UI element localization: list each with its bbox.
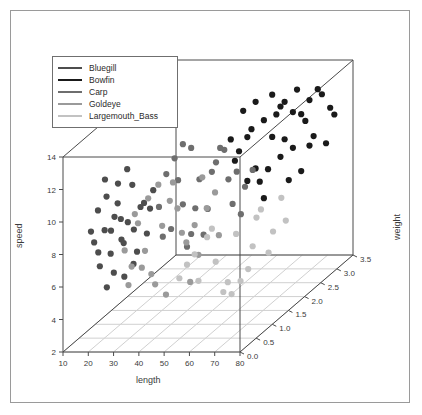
- scatter-point: [213, 159, 219, 165]
- scatter-point: [88, 229, 94, 235]
- scatter-point: [180, 141, 186, 147]
- scatter-point: [104, 284, 110, 290]
- scatter-point: [277, 154, 283, 160]
- axis-tick-label: 4: [52, 316, 57, 325]
- scatter-point: [237, 278, 243, 284]
- scatter-point: [234, 169, 240, 175]
- scatter-point: [323, 140, 329, 146]
- figure-canvas: 102030405060708024681012140.00.51.01.52.…: [0, 0, 422, 415]
- axis-tick-label: 40: [134, 359, 143, 368]
- scatter-point: [124, 166, 130, 172]
- scatter-point: [129, 182, 135, 188]
- axis-tick-label: 0.5: [263, 338, 275, 347]
- axis-tick-label: 70: [210, 359, 219, 368]
- legend-swatch-line: [58, 103, 82, 105]
- box-edge: [240, 60, 353, 157]
- scatter-point: [209, 226, 215, 232]
- scatter-point: [278, 195, 284, 201]
- scatter-point: [152, 281, 158, 287]
- scatter-point: [286, 177, 292, 183]
- scatter-point: [192, 222, 198, 228]
- scatter-point: [220, 289, 226, 295]
- scatter-point: [118, 216, 124, 222]
- axis-tick-label: 10: [59, 359, 68, 368]
- scatter-point: [160, 234, 166, 240]
- axis-tick-label: 2.0: [312, 297, 324, 306]
- axis-tick-label: 6: [52, 283, 57, 292]
- legend-box[interactable]: BluegillBowfinCarpGoldeyeLargemouth_Bass: [52, 56, 178, 128]
- z-axis-tick: [256, 338, 260, 340]
- scatter-point: [204, 205, 210, 211]
- scatter-point: [257, 179, 263, 185]
- scatter-point: [221, 147, 227, 153]
- scatter-point: [236, 148, 242, 154]
- axis-tick-label: 10: [47, 218, 56, 227]
- scatter-point: [159, 223, 165, 229]
- scatter-point: [294, 86, 300, 92]
- scatter-point: [125, 282, 131, 288]
- axis-tick-label: 2.5: [328, 283, 340, 292]
- scatter-point: [311, 133, 317, 139]
- scatter-point: [242, 184, 248, 190]
- scatter-point: [232, 158, 238, 164]
- legend-swatch-line: [58, 67, 82, 69]
- scatter-point: [102, 227, 108, 233]
- z-axis-tick: [288, 310, 292, 312]
- legend-item[interactable]: Largemouth_Bass: [58, 110, 173, 122]
- legend-item[interactable]: Goldeye: [58, 98, 173, 110]
- y-axis-title: speed: [14, 223, 24, 248]
- axis-tick-label: 80: [236, 359, 245, 368]
- axis-tick-label: 3.0: [344, 269, 356, 278]
- scatter-point: [187, 279, 193, 285]
- axis-tick-label: 1.0: [279, 324, 291, 333]
- scatter-point: [91, 239, 97, 245]
- scatter-point: [115, 180, 121, 186]
- scatter-point: [228, 136, 234, 142]
- scatter-point: [180, 201, 186, 207]
- legend-item[interactable]: Bowfin: [58, 74, 173, 86]
- z-axis-tick: [353, 255, 357, 257]
- scatter-point: [95, 249, 101, 255]
- scatter-point: [148, 271, 154, 277]
- scatter-point: [265, 250, 271, 256]
- scatter-point: [258, 206, 264, 212]
- scatter-point: [248, 126, 254, 132]
- scatter-point: [156, 204, 162, 210]
- scatter-point: [168, 226, 174, 232]
- x-axis-title: length: [136, 375, 161, 385]
- scatter-point: [111, 270, 117, 276]
- axis-tick-label: 60: [185, 359, 194, 368]
- scatter-point: [229, 201, 235, 207]
- scatter-point: [298, 111, 304, 117]
- legend-item[interactable]: Carp: [58, 86, 173, 98]
- scatter-point: [163, 171, 169, 177]
- legend-swatch-line: [58, 79, 82, 81]
- scatter-point: [319, 91, 325, 97]
- scatter-point: [192, 205, 198, 211]
- scatter-point: [102, 176, 108, 182]
- scatter-point: [135, 220, 141, 226]
- scatter-point: [253, 99, 259, 105]
- scatter-point: [209, 169, 215, 175]
- scatter-point: [245, 266, 251, 272]
- legend-label: Carp: [89, 86, 107, 98]
- scatter-point: [265, 166, 271, 172]
- scatter-point: [270, 228, 276, 234]
- scatter-point: [111, 214, 117, 220]
- scatter-point: [290, 145, 296, 151]
- scatter-point: [229, 291, 235, 297]
- scatter-point: [273, 111, 279, 117]
- legend-swatch-line: [58, 91, 82, 93]
- axis-tick-label: 0.0: [247, 352, 259, 361]
- scatter-point: [171, 155, 177, 161]
- scatter-point: [144, 230, 150, 236]
- z-axis-title: weight: [392, 214, 402, 240]
- floor-grid-line: [114, 255, 227, 352]
- legend-swatch-line: [58, 115, 82, 117]
- axis-tick-label: 50: [160, 359, 169, 368]
- scatter-point: [250, 167, 256, 173]
- axis-tick-label: 30: [109, 359, 118, 368]
- scatter-point: [199, 174, 205, 180]
- axis-tick-label: 12: [47, 186, 56, 195]
- legend-item[interactable]: Bluegill: [58, 62, 173, 74]
